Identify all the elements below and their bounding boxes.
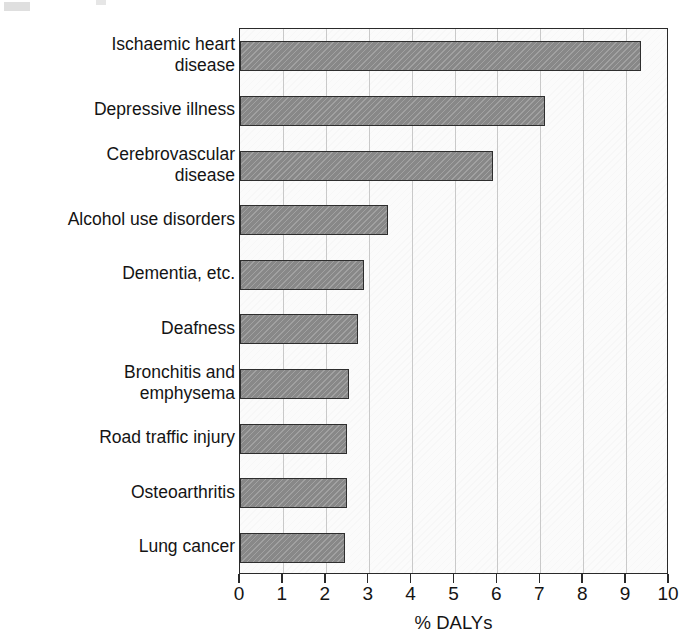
bar[interactable] xyxy=(240,533,345,563)
tick-label-8: 8 xyxy=(577,582,588,605)
bar[interactable] xyxy=(240,314,358,344)
tick-label-5: 5 xyxy=(448,582,459,605)
scan-artifact xyxy=(4,2,30,11)
category-label: Cerebrovascular disease xyxy=(0,144,235,186)
tick-label-6: 6 xyxy=(491,582,502,605)
tick-label-3: 3 xyxy=(362,582,373,605)
gridline-9 xyxy=(626,29,627,573)
bar[interactable] xyxy=(240,424,347,454)
bar[interactable] xyxy=(240,96,545,126)
x-axis-title: % DALYs xyxy=(239,612,668,633)
category-label: Osteoarthritis xyxy=(0,482,235,503)
tick-label-9: 9 xyxy=(620,582,631,605)
tick-label-7: 7 xyxy=(534,582,545,605)
scan-artifact-secondary xyxy=(96,0,106,5)
bar[interactable] xyxy=(240,151,493,181)
category-label: Lung cancer xyxy=(0,536,235,557)
category-label: Deafness xyxy=(0,318,235,339)
bar[interactable] xyxy=(240,41,641,71)
category-label: Road traffic injury xyxy=(0,427,235,448)
category-label: Ischaemic heart disease xyxy=(0,34,235,76)
tick-label-0: 0 xyxy=(234,582,245,605)
tick-label-10: 10 xyxy=(657,582,678,605)
bar[interactable] xyxy=(240,260,364,290)
bar[interactable] xyxy=(240,205,388,235)
bar[interactable] xyxy=(240,478,347,508)
plot-area xyxy=(239,28,668,574)
category-label: Alcohol use disorders xyxy=(0,209,235,230)
bar[interactable] xyxy=(240,369,349,399)
category-label: Depressive illness xyxy=(0,99,235,120)
category-label: Dementia, etc. xyxy=(0,263,235,284)
category-label: Bronchitis and emphysema xyxy=(0,362,235,404)
tick-label-4: 4 xyxy=(405,582,416,605)
tick-label-1: 1 xyxy=(277,582,288,605)
gridline-8 xyxy=(583,29,584,573)
tick-label-2: 2 xyxy=(320,582,331,605)
horizontal-bar-chart: Ischaemic heart diseaseDepressive illnes… xyxy=(40,16,683,633)
